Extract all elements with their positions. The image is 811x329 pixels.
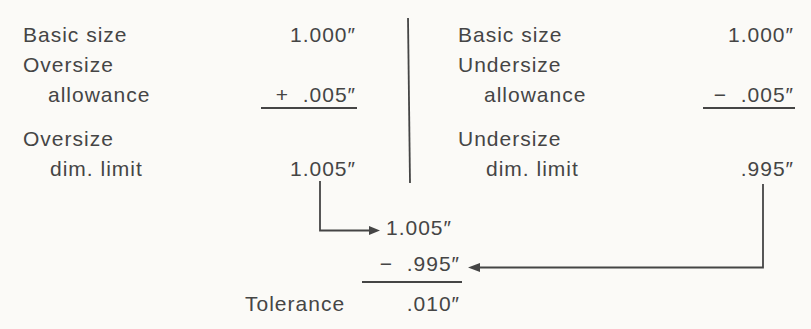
tolerance-result-value: .010″ bbox=[340, 293, 460, 315]
oversize-dim-limit-label-line1: Oversize bbox=[23, 128, 114, 150]
undersize-allowance-label-line1: Undersize bbox=[458, 54, 562, 76]
oversize-basic-size-value: 1.000″ bbox=[230, 24, 356, 46]
oversize-limit-arrowhead-icon bbox=[369, 226, 380, 235]
tolerance-subtrahend-value: − .995″ bbox=[340, 253, 460, 275]
oversize-dim-limit-value: 1.005″ bbox=[230, 158, 356, 180]
oversize-limit-arrow-line bbox=[320, 181, 371, 231]
undersize-dim-limit-value: .995″ bbox=[660, 158, 794, 180]
undersize-dim-limit-label-line2: dim. limit bbox=[486, 158, 579, 180]
tolerance-label: Tolerance bbox=[245, 293, 345, 315]
tolerance-minuend-value: 1.005″ bbox=[386, 217, 452, 239]
undersize-allowance-label-line2: allowance bbox=[484, 84, 586, 106]
undersize-dim-limit-label-line1: Undersize bbox=[458, 128, 562, 150]
tolerance-calculation-figure: Basic size 1.000″ Oversize allowance + .… bbox=[0, 0, 811, 329]
undersize-basic-size-label: Basic size bbox=[458, 24, 563, 46]
oversize-dim-limit-label-line2: dim. limit bbox=[50, 158, 143, 180]
undersize-limit-arrow-line bbox=[479, 184, 763, 268]
column-divider-line bbox=[408, 18, 410, 183]
oversize-allowance-label-line1: Oversize bbox=[23, 54, 114, 76]
oversize-allowance-value: + .005″ bbox=[230, 84, 356, 106]
undersize-allowance-value: − .005″ bbox=[660, 84, 794, 106]
undersize-limit-arrowhead-icon bbox=[468, 263, 480, 272]
oversize-basic-size-label: Basic size bbox=[23, 24, 128, 46]
oversize-allowance-label-line2: allowance bbox=[48, 84, 150, 106]
undersize-basic-size-value: 1.000″ bbox=[660, 24, 794, 46]
